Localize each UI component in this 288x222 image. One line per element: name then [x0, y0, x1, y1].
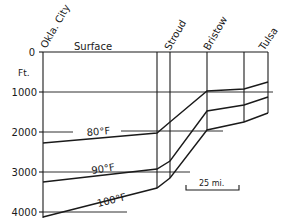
surface-label: Surface	[74, 41, 112, 52]
isotherm-label-80f: 80°F	[86, 125, 111, 138]
tick-label-1000: 1000	[12, 87, 37, 98]
scale-bar-label: 25 mi.	[199, 179, 224, 188]
location-label-okla-city: Okla. City	[38, 2, 72, 50]
location-label-bristow: Bristow	[201, 14, 229, 52]
location-label-stroud: Stroud	[162, 18, 188, 52]
tick-label-0: 0	[29, 47, 35, 58]
location-label-tulsa: Tulsa	[256, 25, 280, 53]
isotherm-cross-section-diagram: 0 Ft. 1000 2000 3000 4000 Surface Okla. …	[0, 0, 288, 222]
unit-label: Ft.	[18, 68, 30, 78]
tick-label-2000: 2000	[12, 127, 37, 138]
tick-label-3000: 3000	[12, 167, 37, 178]
isotherm-80f	[43, 82, 268, 143]
tick-label-4000: 4000	[12, 207, 37, 218]
isotherm-label-100f: 100°F	[96, 191, 128, 209]
isotherm-100f	[43, 113, 268, 217]
